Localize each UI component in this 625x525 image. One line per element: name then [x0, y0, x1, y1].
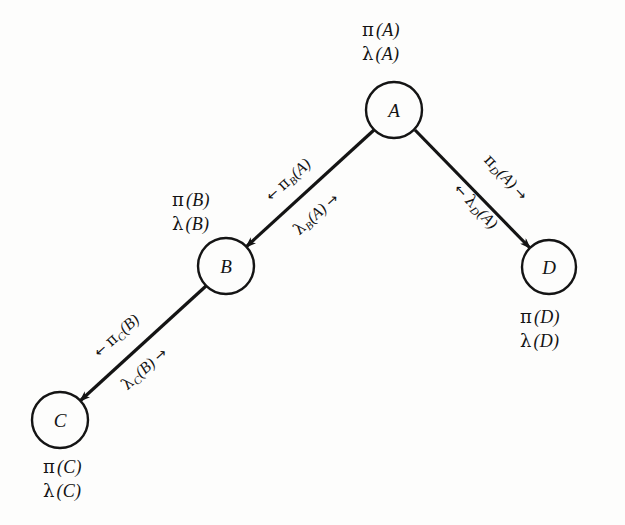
- pi-symbol: π: [43, 456, 57, 477]
- node-c-label: C: [54, 410, 67, 431]
- belief-label-c: π(C) λ(C): [43, 455, 82, 503]
- node-d-label: D: [541, 257, 556, 278]
- node-b[interactable]: B: [198, 238, 254, 294]
- lambda-a-line: λ(A): [362, 42, 400, 66]
- pi-b-line: π(B): [172, 188, 210, 212]
- belief-label-d: π(D) λ(D): [520, 305, 560, 353]
- pi-c-arg: (C): [57, 457, 82, 477]
- lambda-c-line: λ(C): [43, 479, 82, 503]
- lambda-symbol: λ: [43, 480, 57, 501]
- node-a-label: A: [386, 100, 400, 121]
- node-d[interactable]: D: [522, 240, 576, 294]
- lambda-c-arg: (C): [57, 481, 82, 501]
- belief-label-a: π(A) λ(A): [362, 18, 400, 66]
- lambda-a-arg: (A): [376, 44, 400, 64]
- lambda-symbol: λ: [520, 330, 534, 351]
- node-a[interactable]: A: [366, 82, 422, 138]
- pi-d-line: π(D): [520, 305, 560, 329]
- belief-label-b: π(B) λ(B): [172, 188, 210, 236]
- pi-symbol: π: [362, 19, 376, 40]
- pi-c-line: π(C): [43, 455, 82, 479]
- pi-d-arg: (D): [534, 307, 560, 327]
- lambda-b-line: λ(B): [172, 212, 210, 236]
- pi-symbol: π: [172, 189, 186, 210]
- pi-a-arg: (A): [376, 20, 400, 40]
- pi-symbol: π: [520, 306, 534, 327]
- lambda-b-arg: (B): [186, 214, 210, 234]
- pi-a-line: π(A): [362, 18, 400, 42]
- lambda-symbol: λ: [172, 213, 186, 234]
- lambda-d-line: λ(D): [520, 329, 560, 353]
- node-c[interactable]: C: [32, 392, 88, 448]
- lambda-symbol: λ: [362, 43, 376, 64]
- lambda-d-arg: (D): [534, 331, 560, 351]
- pi-b-arg: (B): [186, 190, 210, 210]
- node-group: A B C D: [32, 82, 576, 448]
- diagram-canvas: A B C D: [0, 0, 625, 525]
- node-b-label: B: [220, 256, 232, 277]
- belief-propagation-diagram: A B C D π(A) λ(A) π(B): [0, 0, 625, 525]
